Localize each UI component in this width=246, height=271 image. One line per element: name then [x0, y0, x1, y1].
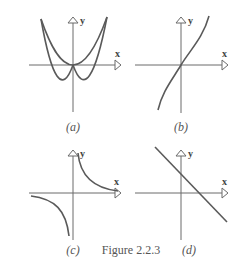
x-axis-label: x	[222, 176, 227, 187]
panel-c: y x (c)	[29, 148, 121, 257]
y-axis-arrow-icon	[68, 150, 78, 156]
x-axis-arrow-icon	[115, 188, 121, 198]
y-axis-label: y	[188, 15, 193, 26]
panel-label-b: (b)	[174, 120, 188, 134]
panel-label-a: (a)	[66, 120, 80, 134]
panel-label-c: (c)	[66, 243, 79, 257]
figure-caption: Figure 2.2.3	[102, 243, 160, 257]
figure-2-2-3: y x (a) y x (b) y x (c) y x (d)	[0, 0, 246, 271]
y-axis-label: y	[80, 148, 85, 159]
x-axis-label: x	[115, 48, 120, 59]
y-axis-label: y	[188, 148, 193, 159]
x-axis-label: x	[222, 48, 227, 59]
y-axis-arrow-icon	[176, 150, 186, 156]
y-axis-label: y	[80, 15, 85, 26]
x-axis-arrow-icon	[222, 188, 228, 198]
hyperbola-branch-negative	[31, 196, 69, 236]
y-axis-arrow-icon	[68, 17, 78, 23]
panel-d: y x (d)	[135, 147, 228, 257]
parabola-curve	[41, 17, 107, 80]
y-axis-arrow-icon	[176, 17, 186, 23]
x-axis-label: x	[114, 176, 119, 187]
panel-b: y x (b)	[135, 15, 228, 134]
x-axis-arrow-icon	[115, 60, 121, 70]
panel-label-d: (d)	[182, 243, 196, 257]
panel-a: y x (a)	[29, 15, 121, 134]
increasing-curve	[158, 16, 209, 110]
x-axis-arrow-icon	[222, 60, 228, 70]
